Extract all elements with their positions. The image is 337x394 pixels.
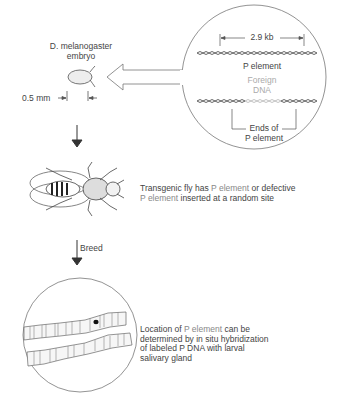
embryo-title: D. melanogaster embryo	[46, 42, 116, 61]
hollow-arrow-icon	[107, 64, 185, 90]
fly-caption-2b: inserted at a random site	[178, 193, 274, 203]
chrom-caption-1b: P element	[184, 324, 222, 334]
fly-caption-1a: Transgenic fly has	[140, 183, 211, 193]
foreign-dna-label: Foreign DNA	[240, 76, 284, 95]
fly-caption-2a: P element	[140, 193, 178, 203]
p-element-label: P element	[230, 62, 294, 72]
foreign-dna-line2: DNA	[240, 86, 284, 96]
scale-bar	[58, 91, 97, 101]
transgenic-fly-icon	[30, 162, 124, 216]
breed-label: Breed	[80, 244, 103, 254]
ends-label-line2: P element	[236, 134, 292, 144]
fly-caption: Transgenic fly has P element or defectiv…	[140, 184, 295, 203]
scale-label: 0.5 mm	[22, 94, 50, 104]
chrom-caption-1a: Location of	[140, 324, 184, 334]
length-label: 2.9 kb	[244, 33, 280, 43]
embryo-icon	[68, 66, 95, 87]
chromosome-caption: Location of P element can be determined …	[140, 325, 269, 363]
ends-label: Ends of P element	[236, 124, 292, 143]
down-arrow-icon	[72, 125, 82, 147]
embryo-title-line2: embryo	[46, 52, 116, 62]
fly-caption-1c: or defective	[249, 183, 295, 193]
fly-caption-1b: P element	[211, 183, 249, 193]
chrom-caption-4: salivary gland	[140, 354, 269, 364]
hybridization-signal-dot	[93, 320, 98, 324]
chrom-caption-1c: can be	[222, 324, 250, 334]
